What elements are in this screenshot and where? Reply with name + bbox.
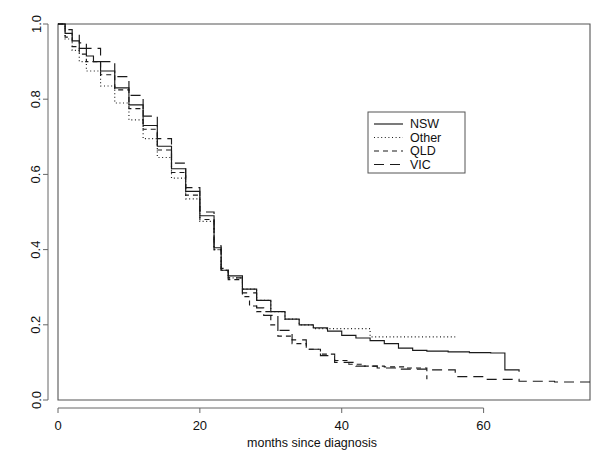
- x-axis-label: months since diagnosis: [247, 436, 377, 450]
- legend-label-qld: QLD: [410, 144, 436, 158]
- y-tick-label: 0.0: [29, 391, 44, 409]
- x-tick-label: 20: [193, 418, 207, 433]
- survival-chart: 0204060 0.00.20.40.60.81.0 months since …: [0, 0, 615, 470]
- legend-label-other: Other: [410, 131, 441, 145]
- y-tick-label: 0.6: [29, 165, 44, 183]
- y-tick-label: 0.2: [29, 316, 44, 334]
- y-tick-label: 1.0: [29, 15, 44, 33]
- x-tick-label: 60: [476, 418, 490, 433]
- y-tick-label: 0.8: [29, 90, 44, 108]
- x-tick-label: 40: [334, 418, 348, 433]
- chart-canvas: 0204060 0.00.20.40.60.81.0 months since …: [0, 0, 615, 470]
- legend-label-vic: VIC: [410, 158, 431, 172]
- legend-label-nsw: NSW: [410, 117, 439, 131]
- x-tick-label: 0: [54, 418, 61, 433]
- legend: NSWOtherQLDVIC: [368, 112, 465, 173]
- y-tick-label: 0.4: [29, 241, 44, 259]
